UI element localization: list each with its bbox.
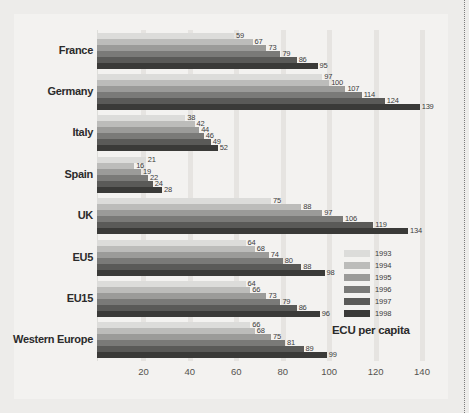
bar-value-label: 99 <box>329 351 337 360</box>
bar <box>97 228 408 234</box>
bar-row: 134 <box>97 228 422 234</box>
legend-item-1993[interactable]: 1993 <box>344 248 444 258</box>
category-label-western-europe: Western Europe <box>13 333 93 345</box>
category-label-spain: Spain <box>65 168 93 180</box>
x-tick-80: 80 <box>277 366 288 377</box>
legend-item-1998[interactable]: 1998 <box>344 308 444 318</box>
bar-row: 139 <box>97 104 422 110</box>
bar <box>97 270 325 276</box>
legend-label: 1998 <box>375 309 391 318</box>
bar <box>97 352 327 358</box>
unit-label: ECU per capita <box>332 324 410 336</box>
category-label-eu15: EU15 <box>67 292 93 304</box>
bar-row: 99 <box>97 352 422 358</box>
legend-swatch-1994 <box>344 262 370 269</box>
x-tick-60: 60 <box>231 366 242 377</box>
bar-row: 28 <box>97 187 422 193</box>
legend-label: 1997 <box>375 297 391 306</box>
legend-swatch-1993 <box>344 250 370 257</box>
bar-value-label: 139 <box>422 102 434 111</box>
chart-root: FranceGermanyItalySpainUKEU5EU15Western … <box>0 0 469 413</box>
chart-panel: FranceGermanyItalySpainUKEU5EU15Western … <box>14 14 448 399</box>
legend-label: 1993 <box>375 249 391 258</box>
bar <box>97 311 320 317</box>
legend-item-1996[interactable]: 1996 <box>344 284 444 294</box>
category-label-italy: Italy <box>72 126 93 138</box>
bar-group: 596773798695 <box>97 30 422 71</box>
bar-row: 52 <box>97 145 422 151</box>
category-label-france: France <box>59 44 93 56</box>
bar-value-label: 134 <box>410 227 422 236</box>
bar-value-label: 96 <box>322 309 330 318</box>
legend: 199319941995199619971998 <box>344 248 444 320</box>
category-label-germany: Germany <box>47 85 93 97</box>
legend-swatch-1995 <box>344 274 370 281</box>
x-tick-120: 120 <box>368 366 384 377</box>
category-label-eu5: EU5 <box>73 251 94 263</box>
bar <box>97 187 162 193</box>
bar-row: 95 <box>97 63 422 69</box>
category-label-uk: UK <box>78 209 93 221</box>
legend-item-1994[interactable]: 1994 <box>344 260 444 270</box>
bar <box>97 104 420 110</box>
legend-label: 1994 <box>375 261 391 270</box>
bar-value-label: 52 <box>220 144 228 153</box>
x-tick-100: 100 <box>321 366 337 377</box>
x-axis: 20406080100120140 <box>97 363 422 387</box>
bar-group: 97100107114124139 <box>97 71 422 112</box>
bar-group: 384244464952 <box>97 113 422 154</box>
bar <box>97 63 318 69</box>
legend-label: 1995 <box>375 273 391 282</box>
category-axis-labels: FranceGermanyItalySpainUKEU5EU15Western … <box>14 30 93 361</box>
legend-swatch-1996 <box>344 286 370 293</box>
bar <box>97 145 218 151</box>
x-tick-20: 20 <box>138 366 149 377</box>
legend-label: 1996 <box>375 285 391 294</box>
page-column-rule <box>464 0 465 413</box>
bar-value-label: 95 <box>320 61 328 70</box>
legend-item-1995[interactable]: 1995 <box>344 272 444 282</box>
bar-group: 211619222428 <box>97 154 422 195</box>
bar-value-label: 28 <box>164 185 172 194</box>
legend-item-1997[interactable]: 1997 <box>344 296 444 306</box>
bar-group: 758897106119134 <box>97 196 422 237</box>
legend-swatch-1998 <box>344 310 370 317</box>
bar-value-label: 98 <box>327 268 335 277</box>
legend-swatch-1997 <box>344 298 370 305</box>
x-tick-40: 40 <box>185 366 196 377</box>
x-tick-140: 140 <box>414 366 430 377</box>
